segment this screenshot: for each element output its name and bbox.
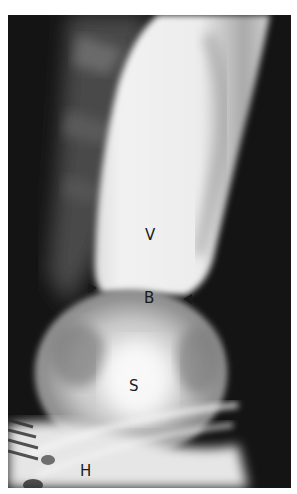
arrowhead-left-icon	[183, 294, 192, 304]
label-hiatus: H	[80, 464, 91, 479]
label-ring: B	[144, 291, 154, 306]
xray-illustration	[8, 15, 291, 488]
dark-spot	[41, 455, 55, 465]
arrowhead-right-icon	[88, 283, 97, 293]
radiograph-image	[8, 15, 291, 488]
label-vestibule: V	[145, 228, 155, 243]
sac-fold-shadow	[176, 326, 220, 394]
label-hernia-sac: S	[129, 379, 139, 394]
sac-fold-shadow	[50, 323, 106, 387]
